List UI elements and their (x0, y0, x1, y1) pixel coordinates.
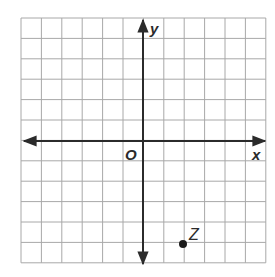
origin-label: O (125, 146, 137, 163)
coordinate-plane: y x O Z (0, 0, 275, 277)
point-z-label: Z (188, 226, 200, 243)
y-axis-label: y (149, 20, 159, 37)
x-axis-label: x (251, 146, 261, 163)
point-z (179, 240, 187, 248)
